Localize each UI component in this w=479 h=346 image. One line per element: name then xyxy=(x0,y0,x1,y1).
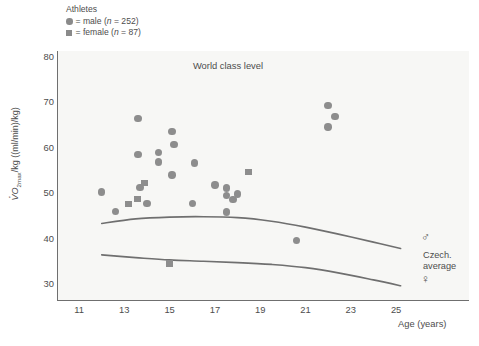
data-point-male xyxy=(211,181,218,188)
czech-line-2: average xyxy=(423,261,456,272)
data-point-male xyxy=(223,184,230,191)
data-point-male xyxy=(143,200,150,207)
data-point-male xyxy=(168,128,175,135)
annotation-czech-average: Czech. average xyxy=(423,250,456,271)
data-point-male xyxy=(98,188,105,195)
data-point-male xyxy=(234,190,241,197)
data-point-male xyxy=(189,200,196,207)
chart-figure: Athletes = male (n = 252) = female (n = … xyxy=(0,0,479,346)
data-point-male xyxy=(134,151,141,158)
data-point-male xyxy=(331,113,338,120)
data-point-male xyxy=(170,141,177,148)
czech-line-1: Czech. xyxy=(423,250,456,261)
data-point-female xyxy=(166,260,173,267)
data-point-male xyxy=(168,171,175,178)
data-point-female xyxy=(134,196,141,203)
data-point-female xyxy=(245,169,252,176)
male-symbol-icon: ♂ xyxy=(421,230,430,244)
data-point-female xyxy=(141,180,148,187)
female-symbol-icon: ♀ xyxy=(421,272,430,286)
annotation-world-class-level: World class level xyxy=(193,60,263,71)
trend-curve xyxy=(102,255,401,286)
data-point-male xyxy=(223,208,230,215)
data-point-male xyxy=(191,159,198,166)
data-point-male xyxy=(134,115,141,122)
trend-curve xyxy=(102,217,401,249)
data-point-male xyxy=(324,123,331,130)
data-point-female xyxy=(125,201,132,208)
data-point-male xyxy=(155,158,162,165)
trend-curves xyxy=(0,0,479,346)
